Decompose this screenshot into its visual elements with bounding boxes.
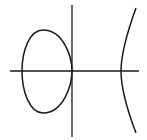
elliptic-curve-diagram — [0, 0, 147, 140]
